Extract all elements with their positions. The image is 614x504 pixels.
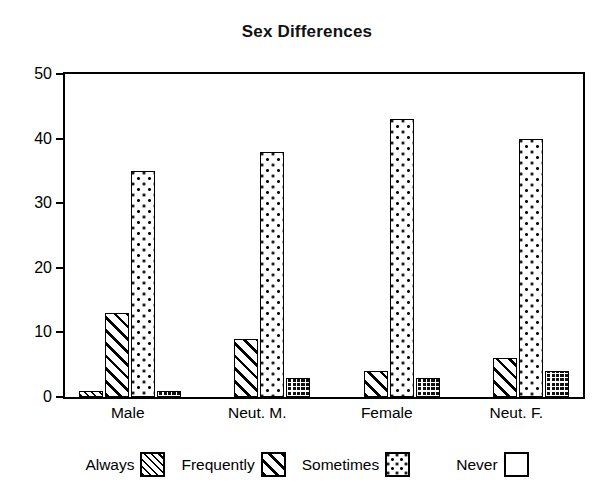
bar-neut-m-never (286, 378, 310, 397)
y-axis-tick-label: 50 (12, 65, 52, 83)
y-axis-tick-label: 40 (12, 130, 52, 148)
legend-swatch-frequently-icon (261, 452, 286, 477)
legend-swatch-always-icon (140, 452, 165, 477)
bar-neut-f-frequently (493, 358, 517, 397)
bar-female-frequently (364, 371, 388, 397)
legend-item-sometimes[interactable]: Sometimes (302, 452, 411, 477)
y-axis-tick (56, 138, 65, 140)
x-axis-category-label: Female (361, 404, 413, 422)
legend-swatch-sometimes-icon (385, 452, 410, 477)
y-axis-tick (56, 396, 65, 398)
y-axis-tick-label: 20 (12, 259, 52, 277)
chart-legend: AlwaysFrequentlySometimesNever (0, 452, 614, 477)
y-axis-tick (56, 267, 65, 269)
bar-male-never (157, 391, 181, 397)
bar-neut-f-never (545, 371, 569, 397)
legend-item-label: Sometimes (302, 456, 380, 474)
legend-item-label: Never (456, 456, 497, 474)
y-axis-tick-label: 10 (12, 323, 52, 341)
legend-item-always[interactable]: Always (85, 452, 165, 477)
bar-female-sometimes (390, 119, 414, 397)
bar-male-frequently (105, 313, 129, 397)
y-axis-tick (56, 331, 65, 333)
x-axis-category-label: Male (111, 404, 145, 422)
bar-neut-m-sometimes (260, 152, 284, 397)
legend-swatch-never-icon (504, 452, 529, 477)
legend-item-frequently[interactable]: Frequently (181, 452, 285, 477)
y-axis-tick (56, 202, 65, 204)
page-title: Sex Differences (0, 22, 614, 42)
y-axis-tick-label: 0 (12, 388, 52, 406)
y-axis-tick-label: 30 (12, 194, 52, 212)
bar-chart-figure: Sex Differences 01020304050 AlwaysFreque… (0, 0, 614, 504)
legend-item-label: Always (85, 456, 134, 474)
plot-area: 01020304050 (63, 72, 585, 399)
bar-male-sometimes (131, 171, 155, 397)
bar-neut-f-sometimes (519, 139, 543, 397)
y-axis-tick (56, 73, 65, 75)
x-axis-category-label: Neut. M. (228, 404, 287, 422)
bar-male-always (79, 391, 103, 397)
bar-female-never (416, 378, 440, 397)
bar-neut-m-frequently (234, 339, 258, 397)
legend-item-never[interactable]: Never (456, 452, 528, 477)
x-axis-category-label: Neut. F. (490, 404, 543, 422)
legend-item-label: Frequently (181, 456, 254, 474)
